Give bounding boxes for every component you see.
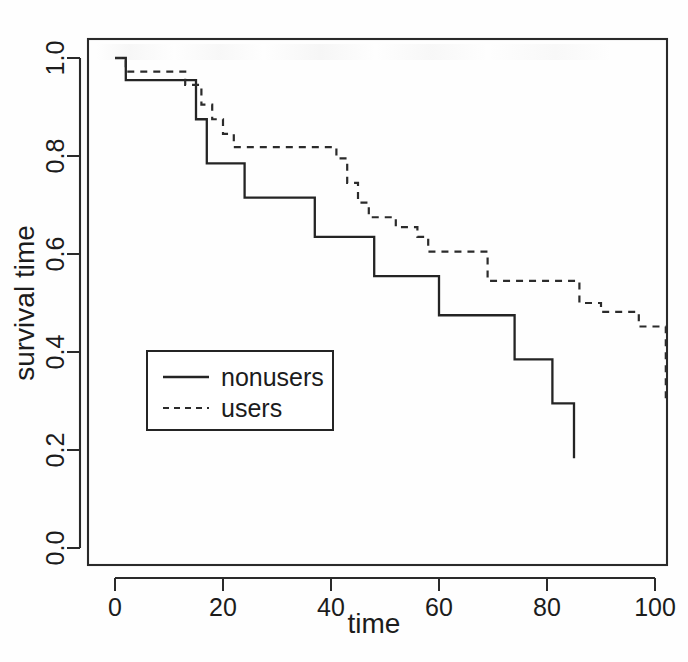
y-tick-label-0.8: 0.8 (41, 139, 69, 174)
plot-canvas: 0.00.20.40.60.81.0 020406080100 nonusers… (0, 0, 688, 662)
y-tick-label-0.0: 0.0 (41, 531, 69, 566)
y-tick-labels: 0.00.20.40.60.81.0 (41, 41, 69, 566)
legend[interactable]: nonusers users (147, 351, 333, 430)
x-tick-label-60: 60 (425, 593, 453, 621)
y-tick-label-0.4: 0.4 (41, 335, 69, 370)
y-tick-label-0.6: 0.6 (41, 237, 69, 272)
legend-label-nonusers: nonusers (221, 363, 324, 391)
y-tick-label-1.0: 1.0 (41, 41, 69, 76)
x-axis-title: time (348, 608, 401, 639)
x-tick-label-100: 100 (634, 593, 676, 621)
x-tick-label-40: 40 (317, 593, 345, 621)
legend-label-users: users (221, 394, 282, 422)
x-tick-marks (115, 578, 655, 591)
survival-plot-figure: 0.00.20.40.60.81.0 020406080100 nonusers… (0, 0, 688, 662)
x-tick-label-0: 0 (108, 593, 122, 621)
x-tick-label-20: 20 (209, 593, 237, 621)
y-axis-title: survival time (9, 225, 40, 381)
y-axis: 0.00.20.40.60.81.0 (41, 41, 80, 566)
x-tick-label-80: 80 (533, 593, 561, 621)
y-tick-marks (67, 58, 80, 548)
y-tick-label-0.2: 0.2 (41, 433, 69, 468)
